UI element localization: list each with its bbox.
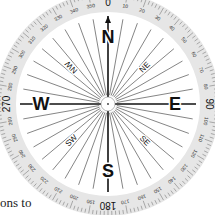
degree-label-270: 270 [1,95,12,112]
intercardinal-label-ne: NE [138,60,152,74]
degree-label-90: 90 [204,98,215,110]
intercardinal-label-se: SE [138,134,152,148]
background-page-text-cut: more [0,210,27,215]
degree-label-180: 180 [99,200,116,211]
compass-rose: 1020304050607080100110120130140150160170… [0,0,215,215]
center-dot [107,103,109,105]
bearing-ray [117,106,193,119]
cardinal-label-e: E [169,94,181,114]
intercardinal-label-nw: NW [63,59,79,75]
intercardinal-label-sw: SW [63,133,79,149]
background-page-text: ons to [0,195,35,211]
bearing-ray [117,89,193,102]
cardinal-label-n: N [102,27,115,47]
cardinal-label-w: W [33,94,50,114]
degree-label-0: 0 [105,0,111,8]
cardinal-label-s: S [102,161,114,181]
north-arrow-icon [105,16,111,23]
